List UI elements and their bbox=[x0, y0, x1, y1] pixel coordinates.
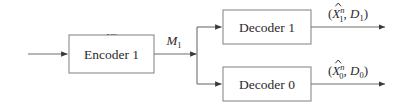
block-diagram-figure: Xn Encoder 1 M1 Decoder 1 bbox=[0, 0, 399, 110]
decoder0-label: Decoder 0 bbox=[239, 77, 295, 92]
output-top-close-paren: ) bbox=[364, 6, 368, 21]
block-decoder0: Decoder 0 bbox=[223, 67, 311, 101]
output-bottom-distortion-base: D bbox=[349, 63, 360, 78]
decoder1-label: Decoder 1 bbox=[239, 20, 295, 35]
output-bottom-close-paren: ) bbox=[364, 63, 368, 78]
output-top-distortion-base: D bbox=[349, 6, 360, 21]
block-decoder1: Decoder 1 bbox=[223, 10, 311, 44]
output-bottom-label: (Xn0, D0) bbox=[328, 62, 368, 81]
encoder1-label: Encoder 1 bbox=[84, 47, 139, 62]
message-signal-subscript: 1 bbox=[177, 40, 181, 50]
block-encoder1: Encoder 1 bbox=[69, 35, 154, 73]
branch-junction bbox=[197, 27, 222, 84]
message-signal-label: M1 bbox=[165, 33, 181, 50]
output-top-label: (Xn1, D1) bbox=[328, 5, 368, 24]
diagram-canvas: Xn Encoder 1 M1 Decoder 1 bbox=[0, 0, 399, 110]
